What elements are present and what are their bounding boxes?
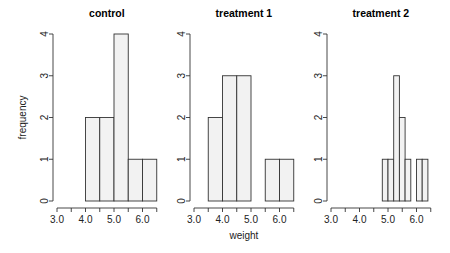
histogram-bar: [208, 118, 222, 202]
x-tick-label: 4.0: [353, 214, 367, 225]
panel-title: treatment 2: [353, 7, 410, 19]
y-tick-label: 4: [39, 31, 50, 37]
histogram-bar: [280, 159, 294, 201]
histogram-bar: [422, 159, 428, 201]
histogram-bar: [86, 118, 100, 202]
y-tick-label: 0: [39, 198, 50, 204]
y-tick-label: 0: [176, 198, 187, 204]
histogram-bar: [114, 34, 128, 201]
histogram-bar: [143, 159, 157, 201]
y-tick-label: 1: [313, 156, 324, 162]
x-tick-label: 6.0: [273, 214, 287, 225]
x-tick-label: 6.0: [410, 214, 424, 225]
x-tick-label: 4.0: [79, 214, 93, 225]
y-tick-label: 2: [313, 114, 324, 120]
x-tick-label: 5.0: [107, 214, 121, 225]
histogram-bar: [100, 118, 114, 202]
histogram-bar: [223, 76, 237, 201]
histogram-bar: [394, 76, 400, 201]
x-tick-label: 3.0: [324, 214, 338, 225]
x-tick-label: 3.0: [187, 214, 201, 225]
y-tick-label: 2: [39, 114, 50, 120]
y-tick-label: 3: [313, 73, 324, 79]
x-tick-label: 6.0: [136, 214, 150, 225]
y-tick-label: 1: [39, 156, 50, 162]
y-tick-label: 3: [39, 73, 50, 79]
y-axis-label: frequency: [17, 96, 28, 140]
histogram-bar: [265, 159, 279, 201]
y-tick-label: 4: [313, 31, 324, 37]
panel-title: treatment 1: [216, 7, 273, 19]
histogram-bar: [399, 118, 405, 202]
y-tick-label: 3: [176, 73, 187, 79]
x-tick-label: 5.0: [244, 214, 258, 225]
y-tick-label: 0: [313, 198, 324, 204]
histogram-bar: [128, 159, 142, 201]
x-axis-label: weight: [228, 230, 258, 241]
panel-1: control012343.04.05.06.0frequency: [17, 7, 157, 225]
y-tick-label: 1: [176, 156, 187, 162]
histogram-bar: [237, 76, 251, 201]
histogram-bar: [417, 159, 423, 201]
histogram-bar: [405, 159, 411, 201]
panel-2: treatment 1012343.04.05.06.0weight: [176, 7, 294, 241]
x-tick-label: 3.0: [50, 214, 64, 225]
y-tick-label: 4: [176, 31, 187, 37]
histogram-bar: [382, 159, 388, 201]
panel-3: treatment 2012343.04.05.06.0: [313, 7, 431, 225]
histogram-panels: control012343.04.05.06.0frequencytreatme…: [0, 0, 450, 253]
x-tick-label: 4.0: [216, 214, 230, 225]
y-tick-label: 2: [176, 114, 187, 120]
x-tick-label: 5.0: [381, 214, 395, 225]
histogram-bar: [388, 159, 394, 201]
panel-title: control: [89, 7, 125, 19]
